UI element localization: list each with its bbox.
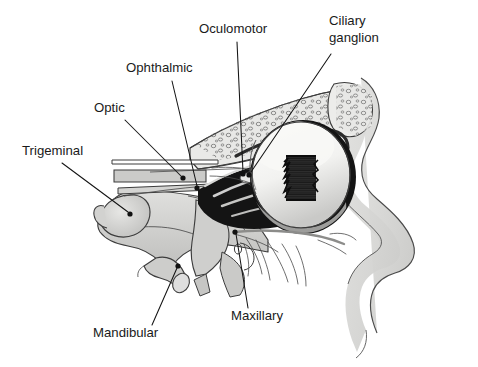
- leader-dot-maxillary: [232, 229, 237, 234]
- label-maxillary: Maxillary: [231, 308, 283, 323]
- label-optic: Optic: [94, 100, 125, 115]
- label-trigeminal: Trigeminal: [22, 143, 83, 158]
- leader-dot-ciliary-ganglion: [246, 172, 251, 177]
- anatomical-figure: Oculomotor Ciliary ganglion Ophthalmic O…: [0, 0, 478, 367]
- label-mandibular: Mandibular: [93, 325, 159, 340]
- anatomy-illustration: Oculomotor Ciliary ganglion Ophthalmic O…: [0, 0, 478, 367]
- leader-dot-trigeminal: [127, 211, 132, 216]
- face-profile: [334, 0, 478, 367]
- label-oculomotor: Oculomotor: [199, 21, 268, 36]
- leader-dot-optic: [180, 175, 185, 180]
- leader-dot-ophthalmic: [194, 185, 199, 190]
- leader-optic: [125, 120, 181, 176]
- mandibular-trunk: [138, 257, 193, 295]
- label-ciliary-ganglion-line2: ganglion: [329, 30, 379, 45]
- leader-dot-oculomotor: [240, 171, 245, 176]
- leader-dot-mandibular: [175, 263, 180, 268]
- label-ophthalmic: Ophthalmic: [126, 60, 193, 75]
- label-ciliary-ganglion-line1: Ciliary: [329, 13, 366, 28]
